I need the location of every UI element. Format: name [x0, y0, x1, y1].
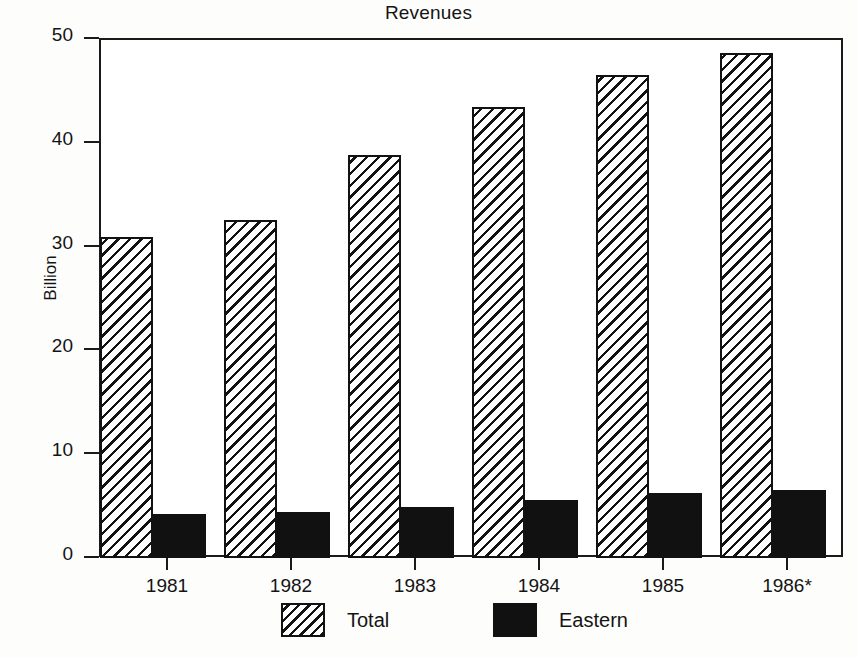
bar-eastern-1982 — [277, 512, 330, 558]
x-tick-mark — [662, 557, 664, 570]
y-tick-label: 40 — [52, 129, 73, 148]
chart-container: Revenues Billion 01020304050 19811982198… — [0, 0, 857, 658]
x-tick-mark — [786, 557, 788, 570]
y-tick-label: 0 — [62, 544, 73, 563]
y-tick-mark — [84, 348, 99, 350]
bar-total-1982 — [224, 220, 277, 558]
bar-total-1985 — [596, 75, 649, 558]
bar-eastern-1983 — [401, 507, 454, 558]
y-tick-label: 20 — [52, 336, 73, 355]
legend-label-eastern: Eastern — [559, 609, 628, 632]
x-tick-label: 1982 — [231, 575, 351, 597]
x-tick-label: 1984 — [479, 575, 599, 597]
y-tick-mark — [84, 245, 99, 247]
x-tick-mark — [414, 557, 416, 570]
bar-total-1986 — [720, 53, 773, 558]
legend-item-total: Total — [281, 603, 389, 637]
bar-total-1981 — [100, 237, 153, 558]
legend-item-eastern: Eastern — [493, 603, 628, 637]
y-tick-mark — [84, 37, 99, 39]
legend-swatch-total-icon — [281, 603, 325, 637]
bar-eastern-1981 — [153, 514, 206, 558]
chart-legend: Total Eastern — [0, 603, 857, 648]
bar-eastern-1985 — [649, 493, 702, 558]
y-tick-mark — [84, 556, 99, 558]
bar-total-1984 — [472, 107, 525, 558]
x-tick-mark — [290, 557, 292, 570]
chart-title: Revenues — [0, 2, 857, 24]
x-tick-mark — [166, 557, 168, 570]
y-tick-label: 10 — [52, 440, 73, 459]
bar-eastern-1984 — [525, 500, 578, 558]
x-tick-label: 1986* — [727, 575, 847, 597]
bar-eastern-1986 — [773, 490, 826, 558]
legend-label-total: Total — [347, 609, 389, 632]
x-tick-label: 1985 — [603, 575, 723, 597]
y-tick-label: 30 — [52, 233, 73, 252]
bar-total-1983 — [348, 155, 401, 558]
x-tick-label: 1981 — [107, 575, 227, 597]
y-tick-mark — [84, 452, 99, 454]
x-tick-label: 1983 — [355, 575, 475, 597]
x-tick-mark — [538, 557, 540, 570]
y-tick-label: 50 — [52, 25, 73, 44]
legend-swatch-eastern-icon — [493, 603, 537, 637]
y-tick-mark — [84, 141, 99, 143]
